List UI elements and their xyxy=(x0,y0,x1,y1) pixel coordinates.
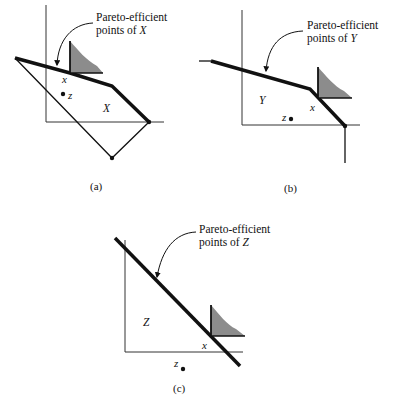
annotation-text-line1: Pareto-efficient xyxy=(96,11,168,23)
annotation-arrow xyxy=(266,31,303,71)
region-label: Z xyxy=(143,316,150,328)
panel-b: Pareto-efficient points of Y x z Y (b) xyxy=(199,10,379,195)
point-x-label: x xyxy=(309,101,315,113)
point-z-dot xyxy=(289,117,293,121)
panel-a: Pareto-efficient points of X x z X (a) xyxy=(15,5,168,193)
annotation-set-name: Y xyxy=(350,32,358,44)
caption-a: (a) xyxy=(90,180,103,193)
annotation-prefix: points of xyxy=(199,236,242,249)
dominance-cone xyxy=(70,41,103,73)
point-z-dot xyxy=(181,367,185,371)
vertex-dot xyxy=(147,120,151,124)
annotation-text-line1: Pareto-efficient xyxy=(307,19,379,31)
point-z-label: z xyxy=(173,357,179,369)
point-x-label: x xyxy=(61,73,67,85)
region-label: X xyxy=(102,102,111,114)
annotation-text-line2: points of Y xyxy=(307,32,358,45)
annotation-set-name: X xyxy=(138,24,147,36)
annotation-text-line2: points of Z xyxy=(199,236,249,249)
caption-b: (b) xyxy=(284,182,297,195)
annotation-set-name: Z xyxy=(242,236,249,248)
annotation-prefix: points of xyxy=(96,24,139,37)
annotation-text-line1: Pareto-efficient xyxy=(199,223,271,235)
caption-c: (c) xyxy=(173,382,186,395)
pareto-frontier-z xyxy=(115,238,240,366)
annotation-arrow xyxy=(157,232,196,277)
annotation-prefix: points of xyxy=(307,32,350,45)
panel-c: Pareto-efficient points of Z x z Z (c) xyxy=(115,223,271,395)
point-z-dot xyxy=(61,92,65,96)
region-label: Y xyxy=(259,94,267,106)
vertex-dot xyxy=(343,124,347,128)
point-x-label: x xyxy=(201,339,207,351)
pareto-diagram: Pareto-efficient points of X x z X (a) P… xyxy=(0,0,399,406)
point-z-label: z xyxy=(67,89,73,101)
vertex-dot xyxy=(110,156,114,160)
dominance-cone xyxy=(211,305,245,336)
annotation-text-line2: points of X xyxy=(96,24,147,37)
point-z-label: z xyxy=(281,111,287,123)
dominance-cone xyxy=(318,67,352,98)
